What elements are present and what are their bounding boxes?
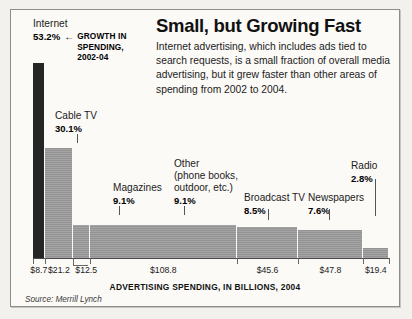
x-axis-tick	[45, 258, 46, 264]
bar-label-stem	[119, 206, 120, 215]
bar-label-stem	[375, 179, 376, 216]
x-axis-value-label: $108.8	[150, 265, 177, 275]
x-axis-value-label: $19.4	[365, 265, 387, 275]
plot-area: Cable TV30.1%Magazines9.1%Other (phone b…	[11, 10, 399, 306]
source-note: Source: Merrill Lynch	[25, 295, 102, 304]
bar-category-label: Magazines	[113, 182, 162, 194]
x-axis-tick	[90, 258, 91, 264]
bar-newspapers	[298, 230, 363, 258]
infographic-root: Small, but Growing Fast Internet adverti…	[0, 0, 412, 319]
x-axis-caption: ADVERTISING SPENDING, IN BILLIONS, 2004	[11, 282, 399, 292]
bar-label-group: Cable TV30.1%	[55, 110, 97, 135]
bar-growth-value: 8.5%	[244, 205, 305, 217]
bar-cable-tv	[45, 148, 74, 258]
x-axis-value-label: $8.7	[30, 265, 47, 275]
bar-internet	[33, 63, 45, 258]
bar-category-label: Newspapers	[308, 192, 364, 204]
bar-label-group: Newspapers7.6%	[308, 192, 364, 217]
x-axis-value-label: $45.6	[257, 265, 279, 275]
bar-label-group: Broadcast TV8.5%	[244, 192, 305, 217]
bar-radio	[363, 248, 389, 258]
bar-label-group: Magazines9.1%	[113, 182, 162, 207]
bar-magazines	[73, 225, 90, 258]
x-axis-tick	[363, 258, 364, 264]
x-axis-value-label: $47.8	[320, 265, 342, 275]
x-axis-tick-end	[389, 258, 390, 264]
bar-label-stem	[77, 134, 78, 143]
bar-category-label: Cable TV	[55, 110, 97, 122]
x-axis-tick	[298, 258, 299, 264]
bar-label-stem	[329, 209, 330, 220]
bar-category-label: Radio	[351, 160, 377, 172]
chart-frame: Small, but Growing Fast Internet adverti…	[10, 9, 400, 307]
x-axis-value-label: $12.5	[75, 265, 97, 275]
bar-category-label: Other (phone books, outdoor, etc.)	[174, 158, 238, 194]
bar-label-group: Radio2.8%	[351, 160, 377, 185]
bar-label-stem	[268, 209, 269, 220]
x-axis-tick	[33, 258, 34, 264]
bar-label-group: Other (phone books, outdoor, etc.)9.1%	[174, 158, 238, 207]
bar-growth-value: 9.1%	[113, 195, 162, 207]
bar-category-label: Broadcast TV	[244, 192, 305, 204]
bar-other-phone-books-outdoor-etc	[90, 225, 237, 258]
bar-growth-value: 2.8%	[351, 173, 377, 185]
x-axis-value-label: $21.2	[48, 265, 70, 275]
bar-broadcast-tv	[237, 227, 299, 258]
bar-growth-value: 7.6%	[308, 205, 364, 217]
x-axis-tick	[237, 258, 238, 264]
x-axis-leader-line	[73, 258, 88, 266]
bar-growth-value: 30.1%	[55, 123, 97, 135]
bar-label-stem	[184, 206, 185, 215]
